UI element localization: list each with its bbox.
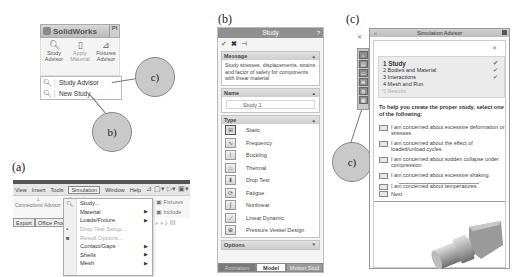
expand-chevron-icon: ▼ [312, 242, 316, 247]
study-name-input[interactable]: Study 1 [226, 100, 315, 109]
type-fatigue[interactable]: ⟳Fatigue [222, 187, 319, 200]
option-button-icon [379, 173, 388, 179]
help-icon[interactable]: ? [317, 28, 320, 38]
view-toolbar-icons[interactable]: ⌕⌕⊱▤ [155, 219, 176, 227]
menu-tools[interactable]: Tools [51, 187, 64, 193]
include-button[interactable]: ▣ Include [156, 207, 183, 217]
collapse-chevron-icon: ▲ [312, 91, 316, 96]
dropdown-item-new-study[interactable]: 🔍︎ New Study [41, 88, 121, 99]
pushpin-icon[interactable]: ⊣ [241, 40, 247, 48]
menu-item-drop-test-setup: ▪ Drop Test Setup... [64, 225, 152, 234]
new-document-icon[interactable]: ▢▾ [154, 185, 165, 193]
menu-item-contact-gaps[interactable]: Contact/Gaps ▶ [64, 242, 152, 251]
name-group: Name ▲ Study 1 [221, 88, 320, 113]
task-pane-tab-strip: ⌂ ▤ ▭ ⊞ ◍ ▦ [357, 48, 369, 110]
menu-window[interactable]: Window [105, 187, 125, 193]
menu-simulation[interactable]: Simulation [68, 186, 100, 194]
apply-material-icon: ▯ [78, 40, 83, 50]
tab-animation[interactable]: Animation [218, 263, 256, 272]
frequency-study-icon: ∿ [225, 138, 236, 148]
simulation-advisor-window: « Simulation Advisor ✕ 1 Study✔ 2 Bodies… [369, 28, 510, 269]
study-advisor-ribbon-button[interactable]: 🔍︎ Study Advisor [41, 38, 67, 75]
name-group-header[interactable]: Name ▲ [222, 89, 319, 97]
step-bodies-and-material[interactable]: 2 Bodies and Material✔ [383, 67, 500, 74]
option-deformation-stresses[interactable]: I am concerned about excessive deformati… [379, 124, 507, 136]
quick-access-toolbar: ⊿ ▢▾ ▷▾ ▣▾ [146, 185, 189, 193]
submenu-arrow-icon: ▶ [144, 244, 148, 249]
task-pane-tab-simulation-advisor-icon[interactable]: ▦ [359, 96, 368, 104]
fixtures-advisor-ribbon-button[interactable]: ⊿ Fixtures Advisor [93, 38, 119, 75]
menu-insert[interactable]: Insert [32, 187, 46, 193]
type-nonlinear[interactable]: ∫Nonlinear [222, 199, 319, 212]
option-sudden-collapse[interactable]: I am concerned about sudden collapse und… [379, 156, 507, 168]
step-study[interactable]: 1 Study✔ [383, 60, 500, 67]
tab-peek[interactable]: Pl [109, 25, 119, 37]
callout-b: b) [92, 112, 132, 152]
options-group-header[interactable]: Options ▼ [222, 241, 319, 249]
pin-icon[interactable]: ⊿ [146, 185, 152, 193]
tab-export[interactable]: Export [13, 218, 35, 227]
step-interactions[interactable]: 3 Interactions✔ [383, 74, 500, 81]
menu-item-shells[interactable]: Shells ▶ [64, 251, 152, 260]
task-pane-tab-appearances-icon[interactable]: ◍ [359, 87, 368, 95]
connections-advisor-button[interactable]: ⊥Connections Advisor [15, 196, 61, 218]
drop-test-icon: ▪ [66, 226, 68, 232]
next-arrow-icon [379, 191, 388, 197]
study-icon: 🔍︎ [66, 200, 74, 207]
menu-item-study[interactable]: 🔍︎ Study... [64, 199, 152, 208]
save-icon[interactable]: ▣▾ [178, 185, 189, 193]
type-buckling[interactable]: ⌇Buckling [222, 149, 319, 162]
menu-view[interactable]: View [15, 187, 27, 193]
task-pane-tab-view-palette-icon[interactable]: ⊞ [359, 78, 368, 86]
type-thermal[interactable]: ♨Thermal [222, 162, 319, 175]
simulation-menu: 🔍︎ Study... Material ▶ Loads/Fixture ▶ ▪… [63, 198, 153, 276]
fixtures-button[interactable]: ▣ Fixtures [156, 197, 183, 207]
options-group: Options ▼ [221, 240, 320, 250]
type-linear-dynamic[interactable]: ⟋Linear Dynamic [222, 212, 319, 225]
task-pane-tab-explorer-icon[interactable]: ▭ [359, 69, 368, 77]
separator [399, 183, 479, 184]
workflow-steps: 1 Study✔ 2 Bodies and Material✔ 3 Intera… [378, 56, 505, 98]
tab-model[interactable]: Model [256, 263, 286, 272]
menu-help[interactable]: Help [130, 187, 141, 193]
type-frequency[interactable]: ∿Frequency [222, 137, 319, 150]
option-temperatures[interactable]: I am concerned about temperatures. [379, 183, 507, 190]
thermal-study-icon: ♨ [225, 163, 236, 173]
tab-motion-study[interactable]: Motion Stud [286, 263, 323, 272]
type-pressure-vessel-design[interactable]: ⊕Pressure Vessel Design [222, 224, 319, 237]
option-excessive-shaking[interactable]: I am concerned about excessive shaking. [379, 172, 507, 179]
taskpane-close-icon[interactable]: ✕ [357, 33, 362, 40]
window-pin-icon[interactable] [502, 30, 507, 35]
ribbon-right-group: ▣ Fixtures ▣ Include [156, 197, 183, 217]
panel-label-c: (c) [346, 12, 359, 27]
step-results: 5 Results [383, 88, 500, 95]
panel-label-b: (b) [218, 12, 232, 27]
task-pane-tab-library-icon[interactable]: ▤ [359, 60, 368, 68]
message-group-header[interactable]: Message ▲ [222, 52, 319, 60]
study-advisor-icon: 🔍︎ [49, 40, 60, 50]
dropdown-item-study-advisor[interactable]: 🔍︎ Study Advisor [41, 77, 121, 88]
ok-check-icon[interactable]: ✔ [221, 40, 227, 48]
apply-material-ribbon-button[interactable]: ▯ Apply Material [67, 38, 93, 75]
next-button[interactable]: Next [379, 191, 402, 197]
menu-item-material[interactable]: Material ▶ [64, 208, 152, 217]
advisor-prompt: To help you create the proper study, sel… [379, 104, 507, 118]
step-mesh-and-run[interactable]: 4 Mesh and Run [383, 81, 500, 88]
option-load-cycles[interactable]: I am concerned about the effect of loade… [379, 140, 507, 152]
sa-content: ✕ 1 Study✔ 2 Bodies and Material✔ 3 Inte… [373, 40, 506, 268]
menu-item-loads-fixture[interactable]: Loads/Fixture ▶ [64, 216, 152, 225]
pressure-vessel-study-icon: ⊕ [225, 225, 236, 235]
collapse-chevron-icon: ▲ [312, 54, 316, 59]
message-text: Study stresses, displacements, strains a… [222, 60, 319, 85]
cancel-x-icon[interactable]: ✖ [231, 40, 237, 48]
open-icon[interactable]: ▷▾ [167, 185, 176, 193]
submenu-arrow-icon: ▶ [144, 261, 148, 266]
type-group-header[interactable]: Type ▲ [222, 116, 319, 124]
menu-item-result-options: ■ Result Options... [64, 233, 152, 242]
back-icon[interactable]: « [374, 29, 377, 37]
type-static[interactable]: ⊞Static [222, 124, 319, 137]
type-drop-test[interactable]: ⬇Drop Test [222, 174, 319, 187]
menu-item-mesh[interactable]: Mesh ▶ [64, 259, 152, 268]
task-pane-tab-resources-icon[interactable]: ⌂ [359, 51, 368, 59]
close-icon[interactable]: ✕ [492, 44, 497, 51]
